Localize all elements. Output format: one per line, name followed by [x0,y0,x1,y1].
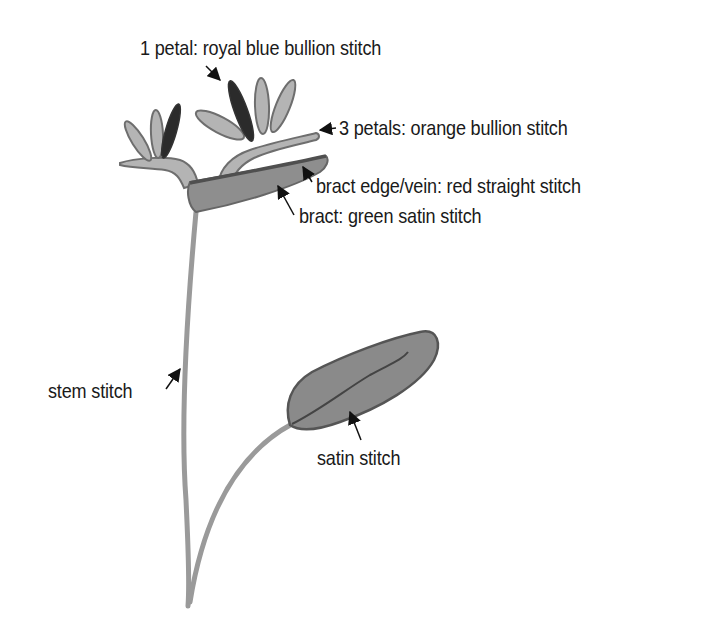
label-royal-blue-petal: 1 petal: royal blue bullion stitch [140,37,381,58]
right-petal-light-mid [254,78,270,134]
flower-stitch-diagram [0,0,707,626]
label-stem: stem stitch [48,380,132,401]
label-bract: bract: green satin stitch [299,205,481,226]
right-petal-light-right [266,77,300,134]
arrow-bract [278,186,294,215]
arrow-orange-petals [320,128,336,130]
label-orange-petals: 3 petals: orange bullion stitch [339,117,568,138]
left-flower-beak [120,158,198,188]
arrow-royal-blue-petal [206,66,220,80]
arrow-stem [166,369,180,389]
leaf-stalk [190,424,292,602]
label-bract-edge: bract edge/vein: red straight stitch [316,175,581,196]
main-stem [184,212,196,606]
label-leaf: satin stitch [317,447,400,468]
